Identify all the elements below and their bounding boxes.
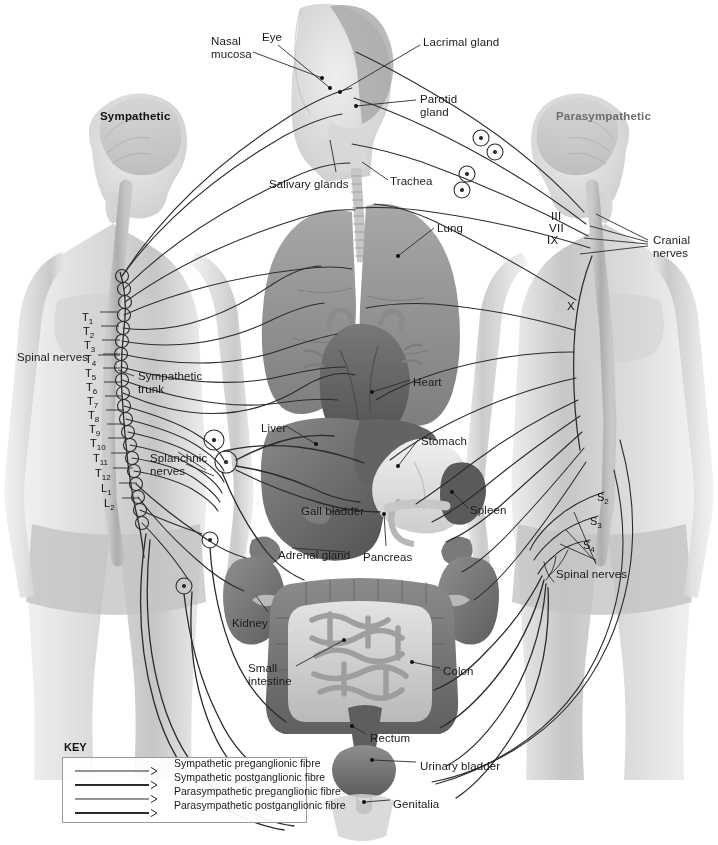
- cranial-nerve-cn-IX: IX: [547, 234, 558, 246]
- label-small-intestine: Small intestine: [248, 662, 292, 687]
- label-spleen: Spleen: [470, 504, 506, 517]
- key-label-sym-pre: Sympathetic preganglionic fibre: [174, 757, 321, 769]
- spinal-segment-T5: T5: [85, 367, 96, 382]
- label-lung: Lung: [437, 222, 463, 235]
- key-line-sym-pre: [71, 765, 167, 777]
- label-genitalia: Genitalia: [393, 798, 439, 811]
- right-body-figure: [464, 94, 713, 780]
- label-trachea: Trachea: [390, 175, 432, 188]
- label-parotid-gland: Parotid gland: [420, 93, 457, 118]
- label-kidney: Kidney: [232, 617, 268, 630]
- spinal-segment-T11: T11: [93, 452, 108, 467]
- key-title: KEY: [64, 741, 87, 753]
- heading-parasympathetic: Parasympathetic: [556, 110, 651, 122]
- anatomy-artwork: [0, 0, 718, 845]
- diagram-canvas: Sympathetic Parasympathetic Nasal mucosa…: [0, 0, 718, 845]
- label-rectum: Rectum: [370, 732, 410, 745]
- pancreas: [388, 503, 446, 508]
- key-label-sym-post: Sympathetic postganglionic fibre: [174, 771, 325, 783]
- label-spinal-nerves-right: Spinal nerves: [556, 568, 627, 581]
- label-spinal-nerves-left: Spinal nerves: [17, 351, 88, 364]
- label-heart: Heart: [413, 376, 442, 389]
- rectum: [348, 705, 382, 752]
- spinal-segment-S2: S2: [597, 491, 609, 506]
- label-splanchnic-nerves: Splanchnic nerves: [150, 452, 207, 477]
- key-label-para-post: Parasympathetic postganglionic fibre: [174, 799, 346, 811]
- spinal-segment-T7: T7: [87, 395, 98, 410]
- spinal-segment-S3: S3: [590, 515, 602, 530]
- cranial-nerve-cn-VII: VII: [549, 222, 564, 234]
- urinary-bladder: [332, 745, 396, 798]
- spinal-segment-L1: L1: [101, 482, 112, 497]
- spinal-segment-T1: T1: [82, 311, 93, 326]
- spinal-segment-L2: L2: [104, 497, 115, 512]
- spinal-segment-S4: S4: [583, 539, 595, 554]
- key-line-sym-post: [71, 779, 167, 791]
- label-lacrimal-gland: Lacrimal gland: [423, 36, 499, 49]
- label-salivary-glands: Salivary glands: [269, 178, 348, 191]
- key-label-para-pre: Parasympathetic preganglionic fibre: [174, 785, 341, 797]
- label-colon: Colon: [443, 665, 474, 678]
- central-head: [291, 4, 393, 182]
- spinal-segment-T6: T6: [86, 381, 97, 396]
- label-cranial-nerves: Cranial nerves: [653, 234, 690, 259]
- heading-sympathetic: Sympathetic: [100, 110, 171, 122]
- label-nasal-mucosa: Nasal mucosa: [211, 35, 252, 60]
- cranial-nerve-cn-X: X: [567, 300, 575, 312]
- label-stomach: Stomach: [421, 435, 467, 448]
- label-urinary-bladder: Urinary bladder: [420, 760, 500, 773]
- spinal-segment-T12: T12: [95, 467, 111, 482]
- label-liver: Liver: [261, 422, 286, 435]
- spinal-segment-T3: T3: [84, 339, 95, 354]
- label-gall-bladder: Gall bladder: [301, 505, 364, 518]
- spinal-segment-T8: T8: [88, 409, 99, 424]
- label-pancreas: Pancreas: [363, 551, 412, 564]
- left-body-figure: [4, 94, 253, 780]
- key-line-para-pre: [71, 793, 167, 805]
- spinal-segment-T9: T9: [89, 423, 100, 438]
- label-sympathetic-trunk: Sympathetic trunk: [138, 370, 202, 395]
- spinal-segment-T2: T2: [83, 325, 94, 340]
- key-box: Sympathetic preganglionic fibreSympathet…: [62, 757, 307, 823]
- key-line-para-post: [71, 807, 167, 819]
- spinal-segment-T4: T4: [85, 353, 96, 368]
- label-adrenal-gland: Adrenal gland: [278, 549, 350, 562]
- label-eye: Eye: [262, 31, 282, 44]
- intestines: [266, 578, 458, 752]
- spinal-segment-T10: T10: [90, 437, 106, 452]
- cranial-nerve-cn-III: III: [551, 210, 562, 222]
